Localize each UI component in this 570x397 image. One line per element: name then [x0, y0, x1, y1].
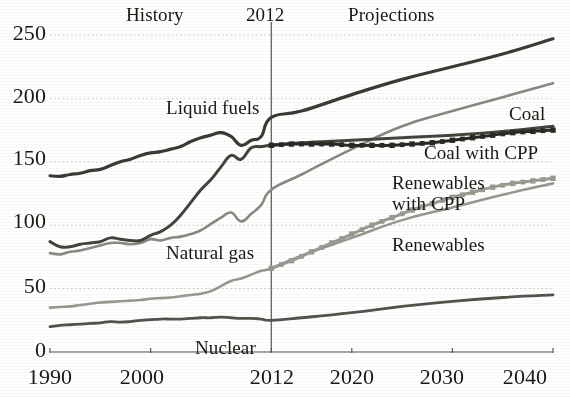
y-axis-tick-50: 50	[0, 275, 46, 297]
axis-lines-group	[50, 348, 553, 353]
x-axis-tick-2030: 2030	[398, 366, 486, 388]
divider-year-label: 2012	[246, 5, 284, 24]
y-axis-tick-250: 250	[0, 22, 46, 44]
y-axis-tick-100: 100	[0, 210, 46, 232]
series-label-nuclear: Nuclear	[195, 338, 256, 357]
series-label-liquid-fuels: Liquid fuels	[166, 98, 260, 117]
x-axis-tick-1990: 1990	[6, 366, 94, 388]
y-axis-tick-200: 200	[0, 85, 46, 107]
renewables-with-cpp-line1: Renewables	[392, 172, 485, 193]
y-axis-tick-0: 0	[0, 339, 46, 361]
x-axis-tick-2000: 2000	[98, 366, 186, 388]
energy-consumption-chart: 250 200 150 100 50 0 1990 2000 2012 2020…	[0, 0, 570, 397]
series-label-coal: Coal	[509, 104, 545, 123]
renewables-with-cpp-line2: with CPP	[392, 193, 485, 214]
x-axis-tick-2012: 2012	[228, 366, 316, 388]
projections-label: Projections	[348, 5, 435, 24]
x-axis-tick-2020: 2020	[308, 366, 396, 388]
series-label-natural-gas: Natural gas	[166, 243, 254, 262]
series-label-renewables-with-cpp: Renewables with CPP	[392, 172, 485, 215]
series-label-renewables: Renewables	[392, 235, 485, 254]
y-axis-tick-150: 150	[0, 147, 46, 169]
series-natural-gas	[50, 83, 553, 254]
x-axis-tick-2040: 2040	[481, 366, 569, 388]
series-label-coal-with-cpp: Coal with CPP	[424, 143, 538, 162]
history-label: History	[126, 5, 184, 24]
